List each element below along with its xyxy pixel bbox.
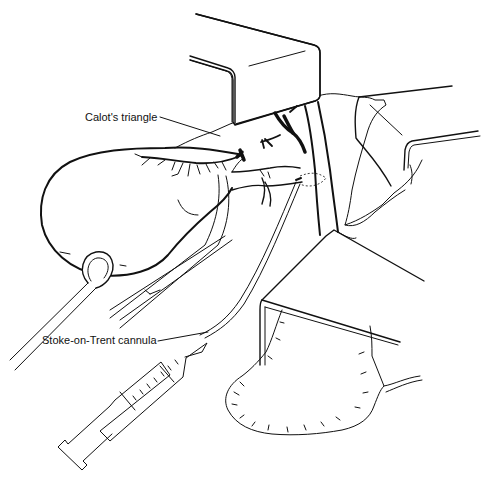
lower-retractor	[260, 230, 424, 365]
gauze-swab	[226, 310, 422, 435]
common-bile-duct	[305, 102, 356, 239]
cannula-leader	[158, 332, 208, 341]
syringe	[58, 343, 207, 470]
diagram-canvas: Calot's triangle Stoke-on-Trent cannula	[0, 0, 489, 492]
calots-triangle-label: Calot's triangle	[85, 111, 157, 123]
right-retractor	[355, 86, 480, 186]
liver-edge	[175, 94, 422, 225]
cannula-label: Stoke-on-Trent cannula	[42, 334, 157, 346]
sponge-forceps	[10, 252, 126, 370]
tissue-edge-right	[345, 190, 405, 226]
upper-retractor	[190, 14, 320, 125]
gallbladder	[41, 147, 244, 275]
calots-triangle-leader	[160, 117, 220, 136]
diagram-svg	[0, 0, 489, 492]
cystic-duct	[232, 167, 326, 207]
cannula	[200, 178, 301, 338]
